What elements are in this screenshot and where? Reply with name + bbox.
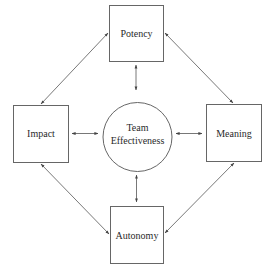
arrow-meaning-autonomy [165,163,234,233]
impact-label: Impact [27,128,55,139]
meaning-label: Meaning [216,128,252,139]
arrow-potency-meaning [165,33,233,103]
arrow-impact-autonomy [41,164,109,234]
team-effectiveness-label-line2: Effectiveness [111,135,165,146]
node-potency: Potency [110,6,164,62]
team-effectiveness-diagram: Potency Impact Meaning Autonomy Team Eff… [0,0,275,273]
potency-label: Potency [120,28,152,39]
autonomy-label: Autonomy [116,230,159,241]
node-autonomy: Autonomy [111,207,164,264]
node-meaning: Meaning [207,105,262,162]
team-effectiveness-label-line1: Team [126,122,148,133]
node-team-effectiveness: Team Effectiveness [103,103,172,172]
arrow-potency-impact [41,33,108,104]
node-impact: Impact [14,106,69,163]
